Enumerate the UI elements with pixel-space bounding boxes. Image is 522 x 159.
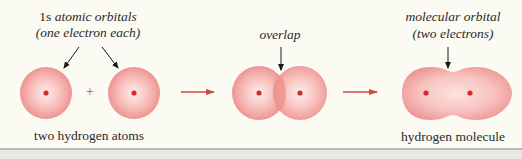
- atomic-orbitals-label: 1s atomic orbitals: [39, 10, 137, 24]
- nucleus-dot: [467, 90, 472, 95]
- orbital-diagram: 1s atomic orbitals (one electron each) +…: [0, 0, 522, 150]
- pointer-arrow-right: [102, 47, 118, 68]
- nucleus-dot: [297, 90, 302, 95]
- molecular-orbital-label: molecular orbital: [406, 10, 501, 24]
- nucleus-dot: [131, 90, 136, 95]
- nucleus-dot: [43, 90, 48, 95]
- overlapping-atoms: [232, 66, 327, 120]
- hydrogen-atom-1: [20, 67, 72, 119]
- two-electrons-label: (two electrons): [413, 27, 494, 41]
- hydrogen-molecule: [402, 67, 512, 120]
- overlap-label: overlap: [259, 28, 300, 42]
- one-electron-each-label: (one electron each): [36, 26, 140, 40]
- plus-sign: +: [86, 85, 94, 99]
- two-hydrogen-atoms-caption: two hydrogen atoms: [34, 129, 144, 143]
- nucleus-dot: [256, 90, 261, 95]
- pointer-arrow-left: [64, 47, 79, 68]
- hydrogen-molecule-caption: hydrogen molecule: [401, 130, 505, 144]
- nucleus-dot: [423, 90, 428, 95]
- hydrogen-atom-2: [108, 67, 160, 119]
